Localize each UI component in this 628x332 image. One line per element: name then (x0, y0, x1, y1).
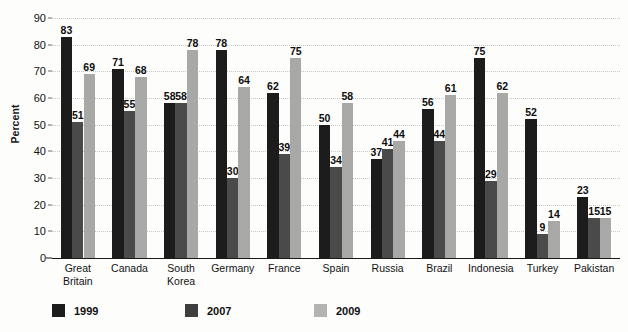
bar-group: 623975 (267, 18, 301, 258)
bar[interactable] (525, 119, 536, 258)
bar[interactable] (290, 58, 301, 258)
y-tick-label: 80 (34, 39, 46, 51)
plot-area: 0102030405060708090 83516971556858587878… (52, 18, 620, 258)
bar-group: 374144 (371, 18, 405, 258)
bar-value-label: 50 (314, 113, 335, 124)
bar-value-label: 71 (107, 57, 128, 68)
bar-value-label: 64 (233, 75, 254, 86)
bar[interactable] (238, 87, 249, 258)
bar[interactable] (72, 122, 83, 258)
bar-value-label: 69 (79, 62, 100, 73)
x-axis-category-label: Pakistan (562, 262, 626, 275)
bar-group: 231515 (577, 18, 611, 258)
bar[interactable] (382, 149, 393, 258)
y-axis-title: Percent (9, 89, 21, 159)
y-tick-label: 70 (34, 65, 46, 77)
legend-item-2007[interactable]: 2007 (185, 304, 231, 317)
bar[interactable] (319, 125, 330, 258)
legend-label: 2007 (207, 305, 231, 317)
y-tick-label: 90 (34, 12, 46, 24)
bar[interactable] (588, 218, 599, 258)
bar[interactable] (175, 103, 186, 258)
bar[interactable] (393, 141, 404, 258)
legend-swatch-icon (52, 304, 65, 317)
bar-group: 52914 (525, 18, 559, 258)
y-tick-label: 60 (34, 92, 46, 104)
bar-group: 752962 (474, 18, 508, 258)
bar-value-label: 23 (572, 185, 593, 196)
bar[interactable] (135, 77, 146, 258)
bar[interactable] (371, 159, 382, 258)
bar-group: 585878 (164, 18, 198, 258)
bar-value-label: 75 (285, 46, 306, 57)
bar[interactable] (112, 69, 123, 258)
bar[interactable] (548, 221, 559, 258)
bar[interactable] (474, 58, 485, 258)
y-tick-label: 10 (34, 225, 46, 237)
bar[interactable] (227, 178, 238, 258)
bars-layer: 8351697155685858787830646239755034583741… (52, 18, 620, 258)
bar[interactable] (267, 93, 278, 258)
bar-value-label: 56 (417, 97, 438, 108)
bar-value-label: 14 (543, 209, 564, 220)
legend-swatch-icon (314, 304, 327, 317)
bar[interactable] (342, 103, 353, 258)
bar-group: 783064 (216, 18, 250, 258)
bar[interactable] (124, 111, 135, 258)
bar[interactable] (445, 95, 456, 258)
bar-group: 503458 (319, 18, 353, 258)
bar-value-label: 75 (469, 46, 490, 57)
legend-label: 1999 (74, 305, 98, 317)
bar[interactable] (84, 74, 95, 258)
legend-item-1999[interactable]: 1999 (52, 304, 98, 317)
bar-value-label: 44 (388, 129, 409, 140)
bar[interactable] (216, 50, 227, 258)
bar[interactable] (497, 93, 508, 258)
bar-value-label: 68 (130, 65, 151, 76)
x-axis-labels: Great BritainCanadaSouth KoreaGermanyFra… (52, 262, 620, 298)
bar[interactable] (537, 234, 548, 258)
bar[interactable] (279, 154, 290, 258)
bar-group: 564461 (422, 18, 456, 258)
y-tick-label: 40 (34, 145, 46, 157)
bar[interactable] (164, 103, 175, 258)
bar[interactable] (434, 141, 445, 258)
bar-value-label: 58 (337, 91, 358, 102)
bar[interactable] (330, 167, 341, 258)
bar[interactable] (485, 181, 496, 258)
bar-value-label: 83 (56, 25, 77, 36)
bar-group: 715568 (112, 18, 146, 258)
bar-value-label: 61 (440, 83, 461, 94)
bar-value-label: 78 (182, 38, 203, 49)
y-tick-label: 30 (34, 172, 46, 184)
bar-value-label: 78 (211, 38, 232, 49)
y-tick-label: 50 (34, 119, 46, 131)
bar-group: 835169 (61, 18, 95, 258)
bar-value-label: 62 (492, 81, 513, 92)
legend-item-2009[interactable]: 2009 (314, 304, 360, 317)
bar[interactable] (187, 50, 198, 258)
bar[interactable] (600, 218, 611, 258)
bar[interactable] (61, 37, 72, 258)
bar-value-label: 15 (595, 206, 616, 217)
bar-chart-figure: Percent 0102030405060708090 835169715568… (0, 0, 628, 332)
legend-label: 2009 (336, 305, 360, 317)
axis-baseline (52, 258, 620, 259)
y-tick-label: 20 (34, 199, 46, 211)
bar-value-label: 52 (520, 107, 541, 118)
bar-value-label: 62 (262, 81, 283, 92)
legend-swatch-icon (185, 304, 198, 317)
